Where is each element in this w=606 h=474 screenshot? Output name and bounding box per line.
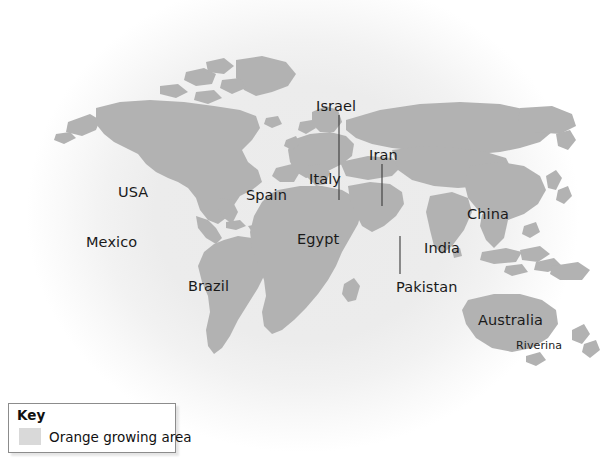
map-label-brazil: Brazil (188, 279, 229, 294)
key-entry-label: Orange growing area (49, 431, 192, 445)
map-label-china: China (467, 207, 509, 222)
map-label-spain: Spain (246, 188, 287, 203)
map-key-box: Key Orange growing area (8, 403, 176, 453)
map-label-usa: USA (118, 185, 148, 200)
map-label-mexico: Mexico (86, 235, 137, 250)
map-label-israel: Israel (316, 99, 356, 114)
world-map-figure: USA Mexico Brazil Spain Italy Israel Ira… (0, 0, 606, 474)
map-label-india: India (424, 241, 460, 256)
map-label-australia: Australia (478, 313, 543, 328)
map-label-egypt: Egypt (297, 232, 339, 247)
key-title: Key (17, 409, 45, 423)
map-label-italy: Italy (309, 172, 341, 187)
map-label-iran: Iran (369, 148, 398, 163)
map-label-pakistan: Pakistan (396, 280, 458, 295)
key-swatch-orange-growing-area (19, 428, 41, 445)
map-label-riverina: Riverina (516, 340, 562, 351)
